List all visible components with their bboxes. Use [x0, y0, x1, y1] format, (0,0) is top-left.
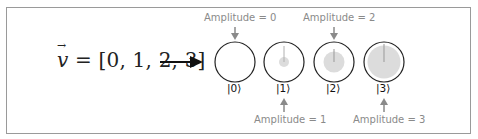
amp1-arrow-icon — [280, 98, 288, 112]
amplitude-label-3: Amplitude = 3 — [353, 114, 425, 125]
amp0-arrow-icon — [231, 27, 239, 40]
amp2-arrow-icon — [330, 27, 338, 40]
state-circle-0 — [215, 42, 255, 82]
ket-label-2: |2⟩ — [326, 82, 340, 94]
main-arrow-icon — [160, 56, 203, 68]
amplitude-label-1: Amplitude = 1 — [254, 114, 326, 125]
amplitude-label-0: Amplitude = 0 — [204, 12, 276, 23]
amp3-arrow-icon — [380, 98, 388, 112]
ket-label-1: |1⟩ — [276, 82, 290, 94]
state-circle-3 — [364, 42, 404, 82]
ket-label-3: |3⟩ — [376, 82, 390, 94]
amplitude-label-2: Amplitude = 2 — [303, 12, 375, 23]
state-circle-2 — [314, 42, 354, 82]
state-circle-1 — [264, 42, 304, 82]
ket-label-0: |0⟩ — [227, 82, 241, 94]
